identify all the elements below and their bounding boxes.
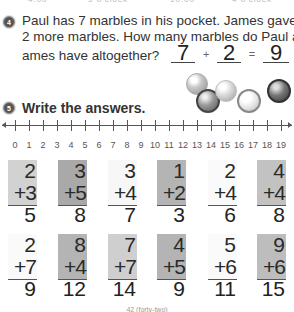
tick bbox=[85, 120, 86, 131]
tick-label: 0 bbox=[12, 140, 17, 150]
tick-label: 7 bbox=[110, 140, 115, 150]
question-number-badge: 5 bbox=[3, 102, 15, 114]
addition-problem: 2 +3 5 bbox=[8, 160, 48, 226]
tick-label: 11 bbox=[164, 140, 173, 150]
tick-label: 1 bbox=[26, 140, 31, 150]
problem-line: ames have altogether? 7 + 2 = 9 bbox=[22, 44, 294, 63]
cut-text: 4:00 bbox=[28, 0, 48, 4]
tick bbox=[281, 120, 282, 131]
tick bbox=[141, 120, 142, 131]
tick-label: 10 bbox=[150, 140, 160, 150]
addition-problem: 2 +7 9 bbox=[8, 234, 48, 300]
answer[interactable]: 7 bbox=[124, 204, 136, 226]
answer[interactable]: 3 bbox=[173, 204, 185, 226]
tick bbox=[253, 120, 254, 131]
addend-bottom: +6 bbox=[263, 256, 285, 278]
tick-label: 2 bbox=[40, 140, 45, 150]
addition-problem: 4 +5 9 bbox=[157, 234, 197, 300]
addend-top: 2 bbox=[24, 160, 36, 182]
cut-off-previous-answers: 4:00 5 o'clock 10:00 4 o'clock bbox=[0, 0, 294, 3]
number-line-axis bbox=[2, 125, 292, 126]
tick-label: 5 bbox=[82, 140, 87, 150]
addend-bottom: +2 bbox=[163, 182, 185, 204]
tick bbox=[71, 120, 72, 131]
tick bbox=[211, 120, 212, 131]
tick bbox=[225, 120, 226, 131]
tick bbox=[197, 120, 198, 131]
addition-problem: 1 +2 3 bbox=[157, 160, 197, 226]
addend-top: 4 bbox=[273, 160, 285, 182]
tick-label: 14 bbox=[206, 140, 216, 150]
tick bbox=[15, 120, 16, 131]
tick bbox=[155, 120, 156, 131]
addend-bottom: +4 bbox=[114, 182, 136, 204]
light-marble-icon bbox=[237, 89, 261, 113]
addend-bottom: +5 bbox=[64, 182, 86, 204]
answer[interactable]: 8 bbox=[74, 204, 86, 226]
tick bbox=[43, 120, 44, 131]
addend-bottom: +7 bbox=[14, 256, 36, 278]
addend2-blank[interactable]: 2 bbox=[217, 44, 241, 63]
addend-bottom: +7 bbox=[114, 256, 136, 278]
tick-label: 16 bbox=[234, 140, 244, 150]
tick-label: 15 bbox=[220, 140, 230, 150]
tick bbox=[113, 120, 114, 131]
tick-label: 9 bbox=[138, 140, 143, 150]
answer[interactable]: 12 bbox=[63, 278, 86, 300]
problem-line: 2 more marbles. How many marbles do Paul… bbox=[22, 29, 294, 45]
equals-sign: = bbox=[249, 48, 255, 60]
tick bbox=[127, 120, 128, 131]
tick bbox=[57, 120, 58, 131]
problem-line-text: ames have altogether? bbox=[22, 48, 159, 63]
addend-top: 3 bbox=[124, 160, 136, 182]
answer[interactable]: 9 bbox=[173, 278, 185, 300]
tick-label: 13 bbox=[192, 140, 202, 150]
addend-bottom: +5 bbox=[163, 256, 185, 278]
addend-bottom: +6 bbox=[214, 256, 236, 278]
tick-label: 8 bbox=[124, 140, 129, 150]
addend-top: 7 bbox=[124, 234, 136, 256]
page-footer: 42 (forty-two) bbox=[0, 306, 294, 312]
plus-sign: + bbox=[203, 48, 209, 60]
addition-problem: 4 +4 8 bbox=[257, 160, 294, 226]
tick bbox=[183, 120, 184, 131]
addend-bottom: +4 bbox=[263, 182, 285, 204]
answer[interactable]: 14 bbox=[113, 278, 136, 300]
addend-top: 2 bbox=[224, 160, 236, 182]
tick-label: 12 bbox=[178, 140, 188, 150]
addend-top: 4 bbox=[173, 234, 185, 256]
tick-label: 6 bbox=[96, 140, 101, 150]
answer[interactable]: 5 bbox=[24, 204, 36, 226]
addend-top: 9 bbox=[273, 234, 285, 256]
word-problem: Paul has 7 marbles in his pocket. James … bbox=[22, 13, 294, 63]
globe-marble-icon bbox=[215, 80, 237, 102]
answer[interactable]: 8 bbox=[273, 204, 285, 226]
addend-bottom: +4 bbox=[64, 256, 86, 278]
addend-bottom: +4 bbox=[214, 182, 236, 204]
addition-problem: 3 +4 7 bbox=[108, 160, 148, 226]
number-line bbox=[2, 119, 292, 131]
tick-label: 4 bbox=[68, 140, 73, 150]
addend1-blank[interactable]: 7 bbox=[171, 44, 195, 63]
addition-problem: 9 +6 15 bbox=[257, 234, 294, 300]
tick-label: 17 bbox=[248, 140, 258, 150]
addend-bottom: +3 bbox=[14, 182, 36, 204]
answer[interactable]: 9 bbox=[24, 278, 36, 300]
cut-text: 10:00 bbox=[170, 0, 195, 4]
tick-label: 19 bbox=[276, 140, 286, 150]
tick-label: 3 bbox=[54, 140, 59, 150]
tick-label: 18 bbox=[262, 140, 272, 150]
addend-top: 8 bbox=[74, 234, 86, 256]
number-line-labels: 0 1 2 3 4 5 6 7 8 9 10 11 12 13 14 15 16… bbox=[2, 140, 292, 152]
addition-problem: 3 +5 8 bbox=[58, 160, 98, 226]
answer[interactable]: 6 bbox=[224, 204, 236, 226]
question-number-badge: 4 bbox=[3, 16, 15, 28]
tick bbox=[29, 120, 30, 131]
cut-text: 5 o'clock bbox=[88, 0, 128, 4]
addition-problem: 5 +6 11 bbox=[208, 234, 248, 300]
sum-blank[interactable]: 9 bbox=[263, 44, 289, 63]
answer[interactable]: 11 bbox=[214, 278, 236, 300]
answer[interactable]: 15 bbox=[262, 278, 285, 300]
addition-problem: 8 +4 12 bbox=[58, 234, 98, 300]
addend-top: 5 bbox=[224, 234, 236, 256]
